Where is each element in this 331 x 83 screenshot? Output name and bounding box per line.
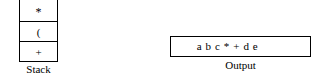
stack-cell-middle: ( — [20, 21, 57, 41]
stack-cell-middle-value: ( — [37, 26, 41, 38]
output-figure: a b c * + d e Output — [170, 36, 311, 72]
stack-figure: * ( + Stack — [19, 0, 58, 76]
stack-label: Stack — [15, 62, 62, 76]
output-box: a b c * + d e — [170, 36, 311, 57]
stack-cell-bottom-value: + — [35, 46, 41, 58]
stack-cell-bottom: + — [20, 41, 57, 61]
diagram-canvas: * ( + Stack a b c * + d e Output — [0, 0, 331, 83]
output-value: a b c * + d e — [197, 40, 285, 53]
stack-cell-top-value: * — [36, 6, 42, 18]
output-label: Output — [170, 57, 311, 72]
stack-cell-top: * — [20, 0, 57, 21]
stack-box: * ( + — [19, 0, 58, 62]
